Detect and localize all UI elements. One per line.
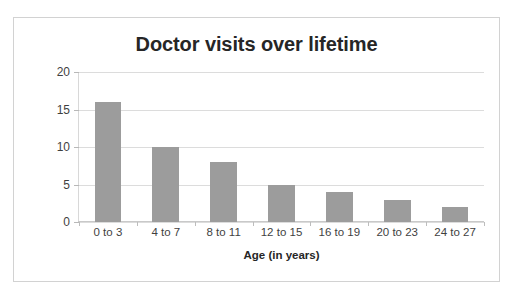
x-tick-label: 12 to 15: [261, 226, 303, 238]
bar[interactable]: [152, 147, 179, 222]
y-tick-label: 20: [57, 65, 70, 79]
x-tick-label: 4 to 7: [151, 226, 180, 238]
x-tick-label: 16 to 19: [319, 226, 361, 238]
chart-title: Doctor visits over lifetime: [14, 34, 499, 54]
bar[interactable]: [95, 102, 122, 222]
y-tick-label: 10: [57, 140, 70, 154]
bar[interactable]: [268, 185, 295, 223]
bar[interactable]: [210, 162, 237, 222]
bar[interactable]: [442, 207, 469, 222]
x-tick-label: 24 to 27: [434, 226, 476, 238]
x-tick-label: 20 to 23: [376, 226, 418, 238]
y-tick-label: 15: [57, 103, 70, 117]
gridline: [79, 222, 484, 223]
y-tick-label: 5: [63, 178, 70, 192]
plot-area: 05101520: [79, 72, 484, 222]
x-tick-mark: [484, 222, 485, 226]
x-tick-label: 0 to 3: [94, 226, 123, 238]
bar-series: [79, 72, 484, 222]
bar[interactable]: [384, 200, 411, 223]
y-tick-label: 0: [63, 215, 70, 229]
bar[interactable]: [326, 192, 353, 222]
x-axis-tick-labels: 0 to 34 to 78 to 1112 to 1516 to 1920 to…: [79, 226, 484, 242]
x-tick-label: 8 to 11: [206, 226, 240, 238]
chart-figure: Doctor visits over lifetime Total number…: [13, 17, 500, 282]
x-axis-title: Age (in years): [79, 249, 484, 261]
